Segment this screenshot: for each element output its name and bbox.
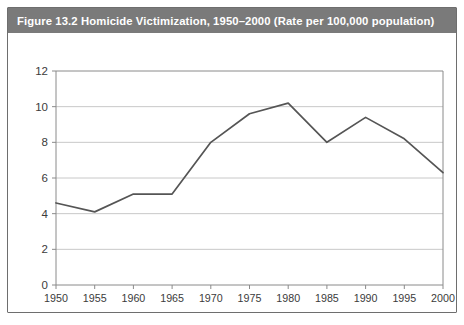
y-axis-tick-label: 12 [18, 65, 48, 77]
x-axis-tick-label: 1975 [230, 292, 270, 304]
x-axis-tick-label: 1970 [191, 292, 231, 304]
x-axis-tick-label: 1950 [36, 292, 76, 304]
figure-frame: Figure 13.2 Homicide Victimization, 1950… [7, 7, 457, 313]
y-axis-tick-label: 2 [18, 243, 48, 255]
line-chart-svg [8, 33, 458, 314]
x-axis-tick-label: 1995 [384, 292, 424, 304]
y-axis-tick-label: 6 [18, 172, 48, 184]
chart-plot-region: 0246810121950195519601965197019751980198… [8, 33, 456, 312]
x-axis-tick-label: 1990 [346, 292, 386, 304]
y-axis-tick-label: 0 [18, 279, 48, 291]
y-axis-tick-label: 10 [18, 101, 48, 113]
x-axis-tick-label: 1985 [307, 292, 347, 304]
y-axis-tick-label: 4 [18, 208, 48, 220]
chart-canvas: 0246810121950195519601965197019751980198… [8, 33, 458, 314]
y-axis-tick-label: 8 [18, 136, 48, 148]
x-axis-tick-label: 1980 [268, 292, 308, 304]
figure-caption-bar: Figure 13.2 Homicide Victimization, 1950… [8, 8, 456, 33]
figure-caption-text: Figure 13.2 Homicide Victimization, 1950… [8, 15, 434, 27]
x-axis-tick-label: 2000 [423, 292, 463, 304]
data-series-line [56, 103, 443, 212]
x-axis-tick-label: 1960 [113, 292, 153, 304]
x-axis-tick-label: 1955 [75, 292, 115, 304]
x-axis-tick-label: 1965 [152, 292, 192, 304]
